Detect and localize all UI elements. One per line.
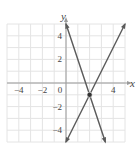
x-axis-label: x [129, 77, 135, 89]
y-tick-label: 2 [58, 54, 63, 64]
x-tick-label: −2 [38, 85, 48, 95]
x-tick-label: 4 [111, 85, 116, 95]
x-tick-label: −4 [14, 85, 24, 95]
y-tick-label: −4 [52, 125, 62, 135]
coordinate-plane: −4−20442−2−4 x y [0, 0, 138, 151]
x-tick-label: 0 [58, 85, 63, 95]
y-axis-label: y [60, 10, 66, 22]
intersection-point [87, 92, 92, 97]
y-tick-label: 4 [58, 31, 63, 41]
y-tick-label: −2 [52, 102, 62, 112]
